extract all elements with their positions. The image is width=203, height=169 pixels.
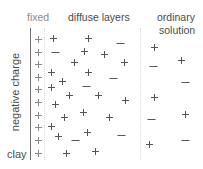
negative-ion-icon xyxy=(147,115,156,124)
ordinary-solution-label-line1: ordinary xyxy=(157,12,195,23)
diffuse-ordinary-divider xyxy=(140,28,142,160)
negative-ion-icon xyxy=(181,136,190,145)
diffuse-layers-label: diffuse layers xyxy=(68,12,130,23)
positive-ion-icon xyxy=(60,113,69,122)
positive-ion-icon xyxy=(47,122,56,131)
negative-ion-icon xyxy=(116,39,125,48)
positive-ion-icon xyxy=(100,50,109,59)
positive-ion-icon xyxy=(177,56,186,65)
fixed-diffuse-divider xyxy=(44,28,46,160)
positive-ion-icon xyxy=(34,111,43,120)
positive-ion-icon xyxy=(121,96,130,105)
positive-ion-icon xyxy=(51,100,60,109)
positive-ion-icon xyxy=(34,73,43,82)
positive-ion-icon xyxy=(84,68,93,77)
positive-ion-icon xyxy=(150,93,159,102)
positive-ion-icon xyxy=(65,91,74,100)
positive-ion-icon xyxy=(34,48,43,57)
positive-ion-icon xyxy=(58,77,67,86)
positive-ion-icon xyxy=(47,83,56,92)
ordinary-solution-label-line2: solution xyxy=(159,25,195,36)
positive-ion-icon xyxy=(145,140,154,149)
positive-ion-icon xyxy=(34,35,43,44)
positive-ion-icon xyxy=(34,60,43,69)
positive-ion-icon xyxy=(91,147,100,156)
positive-ion-icon xyxy=(83,128,92,137)
negative-ion-icon xyxy=(51,48,60,57)
positive-ion-icon xyxy=(80,47,89,56)
positive-ion-icon xyxy=(62,149,71,158)
positive-ion-icon xyxy=(47,68,56,77)
negative-ion-icon xyxy=(71,136,80,145)
positive-ion-icon xyxy=(54,132,63,141)
positive-ion-icon xyxy=(34,98,43,107)
positive-ion-icon xyxy=(84,34,93,43)
positive-ion-icon xyxy=(120,58,129,67)
positive-ion-icon xyxy=(79,108,88,117)
positive-ion-icon xyxy=(181,110,190,119)
fixed-layer-label: fixed xyxy=(27,12,49,23)
positive-ion-icon xyxy=(34,85,43,94)
positive-ion-icon xyxy=(70,58,79,67)
positive-ion-icon xyxy=(34,123,43,132)
positive-ion-icon xyxy=(34,149,43,158)
clay-surface-line xyxy=(30,28,31,160)
positive-ion-icon xyxy=(49,34,58,43)
negative-charge-label: negative charge xyxy=(9,49,21,135)
clay-label: clay xyxy=(7,149,27,160)
negative-ion-icon xyxy=(109,74,118,83)
positive-ion-icon xyxy=(34,136,43,145)
negative-ion-icon xyxy=(117,131,126,140)
negative-ion-icon xyxy=(149,62,158,71)
positive-ion-icon xyxy=(94,91,103,100)
positive-ion-icon xyxy=(105,113,114,122)
positive-ion-icon xyxy=(150,43,159,52)
negative-ion-icon xyxy=(181,78,190,87)
negative-ion-icon xyxy=(82,82,91,91)
